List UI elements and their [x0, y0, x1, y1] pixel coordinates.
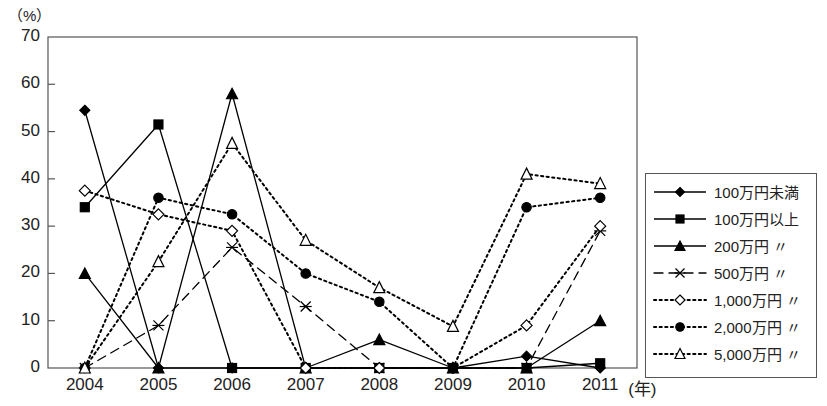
legend-key-filled-diamond-icon [652, 181, 708, 203]
x-tick-label: 2006 [202, 375, 262, 395]
x-tick-label: 2007 [276, 375, 336, 395]
series-1 [80, 120, 604, 373]
legend-key-cross-icon [652, 262, 708, 284]
legend-key-filled-square-icon [652, 208, 708, 230]
series-4 [79, 185, 605, 373]
legend-label: 2,000万円 〃 [708, 316, 801, 337]
x-tick-label: 2008 [349, 375, 409, 395]
legend-item[interactable]: 5,000万円 〃 [652, 340, 810, 367]
y-tick-label: 10 [4, 310, 40, 330]
x-tick-label: 2004 [55, 375, 115, 395]
legend-item[interactable]: 2,000万円 〃 [652, 313, 810, 340]
legend-label: 100万円以上 [708, 208, 799, 229]
legend-label: 500万円 〃 [708, 262, 788, 283]
y-tick-label: 70 [4, 26, 40, 46]
legend-key-filled-circle-icon [652, 316, 708, 338]
legend: 100万円未満100万円以上200万円 〃500万円 〃1,000万円 〃2,0… [645, 173, 817, 378]
legend-item[interactable]: 100万円未満 [652, 178, 810, 205]
legend-item[interactable]: 100万円以上 [652, 205, 810, 232]
x-tick-label: 2005 [128, 375, 188, 395]
y-tick-label: 20 [4, 262, 40, 282]
series-layer [79, 88, 606, 373]
line-chart: （%） 010203040506070 20042005200620072008… [0, 0, 827, 406]
legend-label: 100万円未満 [708, 181, 799, 202]
legend-key-filled-triangle-icon [652, 235, 708, 257]
legend-label: 5,000万円 〃 [708, 343, 801, 364]
y-tick-label: 30 [4, 215, 40, 235]
axes-layer [48, 37, 637, 368]
x-tick-label: 2011 [570, 375, 630, 395]
legend-item[interactable]: 1,000万円 〃 [652, 286, 810, 313]
y-tick-label: 0 [4, 357, 40, 377]
legend-item[interactable]: 500万円 〃 [652, 259, 810, 286]
x-tick-label: 2009 [423, 375, 483, 395]
y-tick-label: 50 [4, 121, 40, 141]
y-tick-label: 60 [4, 73, 40, 93]
legend-key-open-triangle-icon [652, 343, 708, 365]
y-tick-label: 40 [4, 168, 40, 188]
legend-item[interactable]: 200万円 〃 [652, 232, 810, 259]
legend-key-open-diamond-icon [652, 289, 708, 311]
x-axis-unit-label: (年) [628, 375, 656, 400]
x-tick-label: 2010 [497, 375, 557, 395]
series-0 [80, 105, 605, 373]
legend-label: 200万円 〃 [708, 235, 788, 256]
legend-label: 1,000万円 〃 [708, 289, 801, 310]
